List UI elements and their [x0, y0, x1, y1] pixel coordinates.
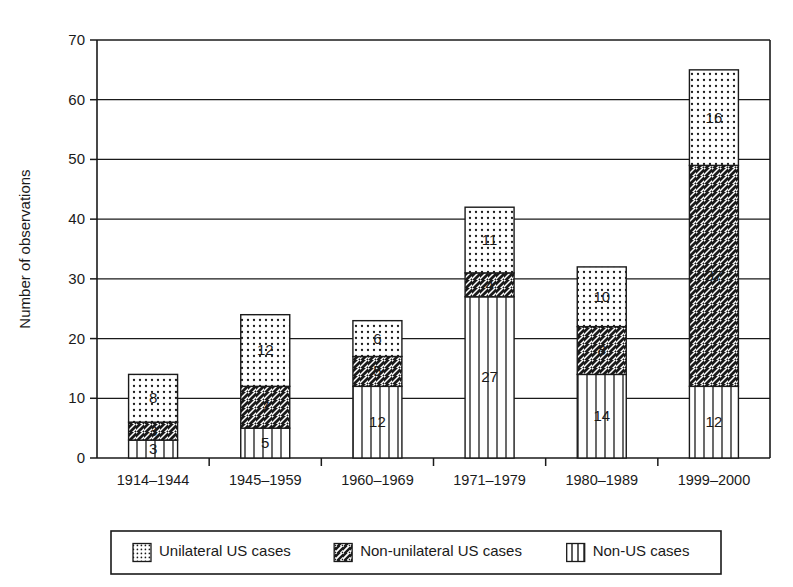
- legend-items: Unilateral US casesNon-unilateral US cas…: [133, 542, 689, 561]
- bar-segment-value: 16: [706, 109, 723, 126]
- legend-swatch-dots-icon: [133, 544, 151, 562]
- bar-segment[interactable]: 3: [129, 440, 178, 458]
- bar-segment-value: 37: [706, 267, 723, 284]
- bar-segment[interactable]: 12: [353, 386, 402, 458]
- chart-svg: 010203040506070 338571212562741114810123…: [0, 0, 793, 587]
- bar-segment[interactable]: 5: [353, 356, 402, 386]
- bar-segment-value: 10: [593, 288, 610, 305]
- bar-segment-value: 6: [373, 330, 381, 347]
- legend-label: Unilateral US cases: [159, 542, 291, 559]
- bar-segment-value: 27: [481, 368, 498, 385]
- legend-label: Non-unilateral US cases: [360, 542, 522, 559]
- bar-segment-value: 7: [261, 398, 269, 415]
- chart-figure: 010203040506070 338571212562741114810123…: [0, 0, 793, 587]
- bar-segment-value: 8: [598, 341, 606, 358]
- x-axis-labels: 1914–19441945–19591960–19691971–19791980…: [117, 472, 750, 488]
- y-tick-label: 50: [68, 150, 85, 167]
- bar-segment[interactable]: 6: [353, 321, 402, 357]
- bar-segment[interactable]: 8: [577, 327, 626, 375]
- x-tick-label: 1914–1944: [117, 472, 190, 488]
- x-tick-label: 1999–2000: [678, 472, 751, 488]
- bar-segment[interactable]: 8: [129, 374, 178, 422]
- legend-swatch-diagonal-hatch-icon: [334, 544, 352, 562]
- legend-swatch-vertical-lines-icon: [567, 544, 585, 562]
- bar-segment[interactable]: 10: [577, 267, 626, 327]
- legend: Unilateral US casesNon-unilateral US cas…: [111, 531, 721, 574]
- bar-segment-value: 12: [369, 413, 386, 430]
- bar-segment-value: 4: [485, 276, 493, 293]
- bar-segment-value: 12: [706, 413, 723, 430]
- plot-background: [97, 40, 770, 458]
- y-tick-label: 40: [68, 210, 85, 227]
- bar-segment-value: 8: [149, 389, 157, 406]
- bar-segment[interactable]: 27: [465, 297, 514, 458]
- bar-segment-value: 11: [482, 231, 498, 248]
- x-axis-ticks: [209, 458, 658, 466]
- x-tick-label: 1980–1989: [565, 472, 638, 488]
- y-axis-title: Number of observations: [16, 169, 33, 328]
- y-tick-label: 70: [68, 31, 85, 48]
- x-tick-label: 1971–1979: [453, 472, 526, 488]
- legend-label: Non-US cases: [593, 542, 690, 559]
- y-tick-label: 30: [68, 270, 85, 287]
- bar-stack: 5712: [241, 315, 290, 458]
- bar-segment-value: 5: [373, 362, 381, 379]
- bar-stack: 14810: [577, 267, 626, 458]
- bar-segment[interactable]: 7: [241, 386, 290, 428]
- bar-stack: 338: [129, 374, 178, 458]
- bar-segment-value: 5: [261, 434, 269, 451]
- bar-segment-value: 12: [257, 341, 274, 358]
- bar-segment[interactable]: 4: [465, 273, 514, 297]
- bar-segment-value: 3: [149, 440, 157, 457]
- bar-segment[interactable]: 12: [241, 315, 290, 387]
- y-tick-label: 20: [68, 330, 85, 347]
- bar-segment[interactable]: 37: [689, 165, 738, 386]
- bar-stack: 123716: [689, 70, 738, 458]
- bar-stack: 1256: [353, 321, 402, 458]
- x-tick-label: 1945–1959: [229, 472, 302, 488]
- y-tick-label: 10: [68, 389, 85, 406]
- y-tick-label: 0: [77, 449, 85, 466]
- bar-stack: 27411: [465, 207, 514, 458]
- bar-segment[interactable]: 11: [465, 207, 514, 273]
- bar-segment-value: 14: [593, 407, 610, 424]
- y-tick-label: 60: [68, 91, 85, 108]
- bar-segment[interactable]: 5: [241, 428, 290, 458]
- x-tick-label: 1960–1969: [341, 472, 414, 488]
- bar-segment-value: 3: [149, 422, 157, 439]
- bar-segment[interactable]: 12: [689, 386, 738, 458]
- bar-segment[interactable]: 3: [129, 422, 178, 440]
- y-axis-ticks: 010203040506070: [68, 31, 97, 466]
- bar-segment[interactable]: 16: [689, 70, 738, 166]
- bar-segment[interactable]: 14: [577, 374, 626, 458]
